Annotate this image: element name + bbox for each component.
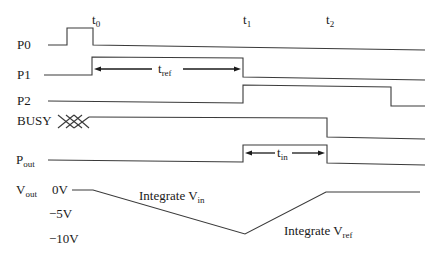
voltage-level-minus-5v: −5V xyxy=(49,207,72,220)
voltage-level-0v: 0V xyxy=(52,183,68,196)
voltage-level-minus-10v: −10V xyxy=(49,232,79,245)
p2-waveform xyxy=(48,85,425,106)
pout-waveform xyxy=(48,145,425,165)
annotation-integrate-vin: Integrate Vin xyxy=(139,189,205,205)
busy-waveform xyxy=(89,117,425,139)
time-marker-t2: t2 xyxy=(326,13,334,29)
vout-waveform xyxy=(72,190,420,234)
signal-label-p1: P1 xyxy=(17,68,31,81)
timing-diagram: t0 t1 t2 P0 P1 P2 BUSY Pout Vout tref ti… xyxy=(0,0,439,259)
time-marker-t0: t0 xyxy=(92,13,100,29)
annotation-integrate-vref: Integrate Vref xyxy=(284,224,353,240)
signal-label-pout: Pout xyxy=(16,153,35,169)
p0-waveform xyxy=(48,28,425,50)
signal-label-p0: P0 xyxy=(17,38,31,51)
signal-label-p2: P2 xyxy=(17,94,31,107)
signal-label-vout: Vout xyxy=(16,183,37,199)
interval-label-t-in: tin xyxy=(277,146,288,162)
interval-label-t-ref: tref xyxy=(158,62,172,78)
busy-undefined-state xyxy=(58,115,89,128)
time-marker-t1: t1 xyxy=(243,13,251,29)
signal-label-busy: BUSY xyxy=(17,114,52,127)
